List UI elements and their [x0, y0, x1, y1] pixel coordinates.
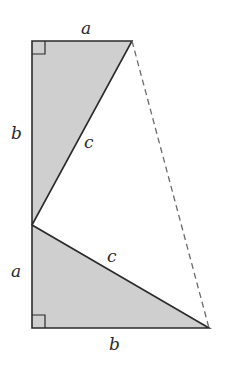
label-left-b: b: [11, 123, 22, 143]
label-lower-c: c: [107, 246, 117, 266]
dashed-hypotenuse-line: [132, 41, 209, 328]
label-left-a: a: [11, 261, 21, 281]
label-upper-c: c: [84, 132, 94, 152]
trapezoid-diagram: a b c a c b: [0, 0, 227, 366]
label-top-a: a: [81, 18, 91, 38]
label-bottom-b: b: [109, 334, 120, 354]
lower-right-triangle: [32, 225, 209, 328]
upper-right-triangle: [32, 41, 132, 225]
